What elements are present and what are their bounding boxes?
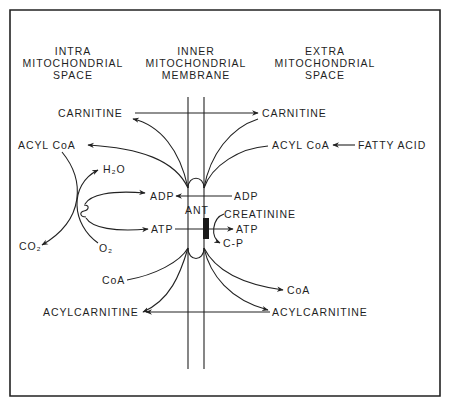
label-carnitine-extra: CARNITINE — [262, 107, 327, 119]
curve-to-atp — [86, 218, 148, 230]
label-acyl-coa-extra: ACYL CoA — [272, 139, 330, 151]
header-extra-3: SPACE — [305, 69, 345, 81]
header-intra-3: SPACE — [53, 69, 93, 81]
creatine-kinase-block — [203, 218, 209, 239]
header-extra-2: MITOCHONDRIAL — [275, 57, 376, 69]
label-fatty-acid: FATTY ACID — [358, 139, 426, 151]
label-atp-intra: ATP — [151, 223, 173, 235]
header-intra: INTRA — [55, 45, 92, 57]
label-acyl-coa-intra: ACYL CoA — [18, 139, 76, 151]
label-adp-extra: ADP — [234, 190, 258, 202]
squiggle-coupling — [81, 205, 88, 217]
ant-hump-top — [188, 178, 204, 188]
label-ant: ANT — [185, 204, 209, 216]
mitochondrial-fatty-acid-transport-diagram: INTRA MITOCHONDRIAL SPACE INNER MITOCHON… — [0, 0, 450, 408]
curve-to-acylcarnitine-left — [143, 248, 188, 312]
label-coa-extra: CoA — [287, 284, 310, 296]
header-inner: INNER — [177, 45, 215, 57]
curve-to-acylcarnitine-right — [204, 248, 268, 310]
curve-acylcoa-to-co2 — [42, 152, 77, 245]
label-acylcarnitine-extra: ACYLCARNITINE — [272, 306, 368, 318]
header-inner-2: MITOCHONDRIAL — [146, 57, 247, 69]
curve-coa-left-in — [127, 248, 188, 280]
curve-to-adp — [85, 192, 145, 204]
curve-from-acylcoa-right — [204, 146, 268, 188]
header-inner-3: MEMBRANE — [162, 69, 231, 81]
header-extra: EXTRA — [305, 45, 345, 57]
label-cp: C-P — [223, 237, 244, 249]
label-atp-extra: ATP — [236, 223, 258, 235]
curve-to-coa-right — [204, 248, 283, 290]
ant-hump-bottom — [188, 248, 204, 259]
curve-from-carnitine-right — [204, 119, 258, 188]
label-adp-intra: ADP — [150, 190, 174, 202]
label-acylcarnitine-intra: ACYLCARNITINE — [43, 306, 139, 318]
label-carnitine-intra: CARNITINE — [58, 107, 123, 119]
label-coa-intra: CoA — [102, 274, 125, 286]
label-co2: CO₂ — [19, 240, 42, 252]
header-intra-2: MITOCHONDRIAL — [23, 57, 124, 69]
label-o2: O₂ — [99, 242, 113, 254]
label-h2o: H₂O — [103, 163, 126, 175]
label-creatinine: CREATININE — [224, 208, 296, 220]
